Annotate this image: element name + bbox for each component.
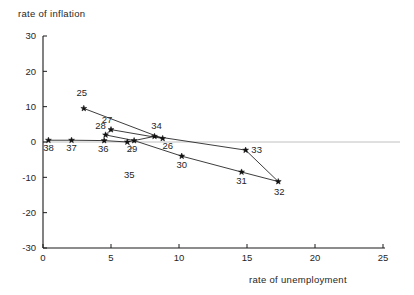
marker-30 <box>179 153 185 159</box>
y-tick-label: -20 <box>22 207 36 218</box>
y-axis-title: rate of inflation <box>18 8 85 19</box>
point-label-28: 28 <box>95 120 106 131</box>
y-tick-label: -10 <box>22 172 36 183</box>
marker-25 <box>81 105 87 111</box>
point-label-29: 29 <box>127 143 138 154</box>
x-axis-ticks: 0510152025 <box>40 244 388 263</box>
x-tick-label: 5 <box>108 252 113 263</box>
x-tick-label: 10 <box>174 252 185 263</box>
marker-34 <box>152 133 158 139</box>
x-tick-label: 20 <box>310 252 321 263</box>
x-axis-title: rate of unemployment <box>249 274 347 285</box>
chart-canvas: rate of inflation 2526272829303132333435… <box>0 0 414 295</box>
point-label-25: 25 <box>77 87 88 98</box>
point-label-31: 31 <box>236 175 247 186</box>
point-label-36: 36 <box>98 143 109 154</box>
x-tick-label: 0 <box>40 252 45 263</box>
point-label-34: 34 <box>151 120 162 131</box>
y-tick-label: 30 <box>25 30 36 41</box>
point-label-33: 33 <box>251 144 262 155</box>
point-label-30: 30 <box>176 159 187 170</box>
x-tick-label: 15 <box>242 252 253 263</box>
marker-31 <box>239 169 245 175</box>
y-tick-label: 20 <box>25 66 36 77</box>
point-label-26: 26 <box>162 140 173 151</box>
point-label-32: 32 <box>274 186 285 197</box>
point-label-38: 38 <box>43 142 54 153</box>
y-tick-label: 0 <box>31 136 36 147</box>
y-tick-label: -30 <box>22 242 36 253</box>
phillips-curve-chart: rate of inflation 2526272829303132333435… <box>0 0 414 295</box>
point-label-37: 37 <box>66 142 77 153</box>
x-tick-label: 25 <box>378 252 389 263</box>
point-label-35: 35 <box>124 169 135 180</box>
y-tick-label: 10 <box>25 101 36 112</box>
